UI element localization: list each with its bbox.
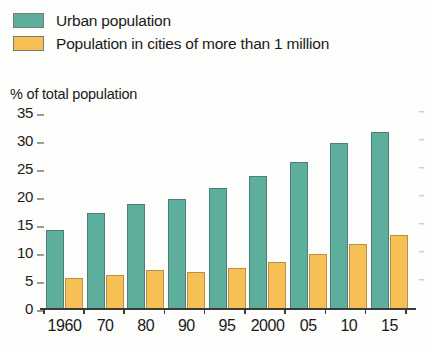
y-axis-tick-15: 15 — [17, 216, 44, 233]
bar[interactable] — [106, 275, 124, 308]
y-axis-tick-label: 35 — [17, 104, 33, 121]
y-axis-tick-dash — [37, 226, 44, 228]
y-axis-tick-dash — [37, 170, 44, 172]
bar-group — [371, 112, 408, 308]
x-axis-tick — [405, 309, 407, 314]
bar[interactable] — [249, 176, 267, 308]
y-axis-tick-20: 20 — [17, 188, 44, 205]
x-axis-tick — [123, 309, 125, 314]
right-tick-mark — [419, 111, 424, 112]
y-axis-tick-dash — [37, 282, 44, 284]
legend-label-million-plus: Population in cities of more than 1 mill… — [56, 36, 329, 52]
legend-item-million-plus: Population in cities of more than 1 mill… — [13, 32, 329, 55]
y-axis-tick-dash — [37, 198, 44, 200]
bar-group — [249, 112, 286, 308]
y-axis-tick-dash — [37, 254, 44, 256]
y-axis-tick-label: 10 — [17, 244, 33, 261]
bar[interactable] — [290, 162, 308, 308]
bar[interactable] — [127, 204, 145, 308]
x-axis-label: 1960 — [46, 317, 83, 345]
x-axis-tick — [365, 309, 367, 314]
bar-group — [290, 112, 327, 308]
chart-plot-area: 05101520253035 1960708090952000051015 — [0, 112, 426, 326]
y-axis-tick-label: 15 — [17, 216, 33, 233]
bar[interactable] — [168, 199, 186, 308]
y-axis-tick-30: 30 — [17, 132, 44, 149]
x-axis-tick — [164, 309, 166, 314]
bar[interactable] — [87, 213, 105, 308]
x-axis-labels: 1960708090952000051015 — [46, 317, 408, 345]
bar[interactable] — [65, 278, 83, 308]
right-tick-marks — [416, 112, 424, 308]
bar[interactable] — [46, 230, 64, 308]
bar[interactable] — [330, 143, 348, 308]
chart-legend: Urban population Population in cities of… — [13, 9, 329, 55]
x-axis-tick — [204, 309, 206, 314]
x-axis-tick — [43, 309, 45, 314]
y-axis-labels: 05101520253035 — [0, 112, 44, 322]
bar-group — [127, 112, 164, 308]
legend-swatch-urban — [13, 13, 44, 28]
bar[interactable] — [146, 270, 164, 308]
bar[interactable] — [187, 272, 205, 308]
x-axis-label: 80 — [127, 317, 164, 345]
y-axis-tick-35: 35 — [17, 104, 44, 121]
bar[interactable] — [209, 188, 227, 308]
bar-group — [330, 112, 367, 308]
x-axis-tick-marks — [0, 308, 426, 315]
x-axis-tick — [83, 309, 85, 314]
y-axis-tick-25: 25 — [17, 160, 44, 177]
y-axis-tick-label: 25 — [17, 160, 33, 177]
bar[interactable] — [390, 235, 408, 308]
bar-group — [209, 112, 246, 308]
y-axis-tick-10: 10 — [17, 244, 44, 261]
x-axis-label: 05 — [290, 317, 327, 345]
bar[interactable] — [309, 254, 327, 308]
y-axis-tick-label: 20 — [17, 188, 33, 205]
bar[interactable] — [228, 268, 246, 308]
bar[interactable] — [349, 244, 367, 308]
y-axis-tick-label: 5 — [25, 272, 33, 289]
x-axis-tick — [325, 309, 327, 314]
x-axis-tick — [284, 309, 286, 314]
legend-item-urban: Urban population — [13, 9, 329, 32]
right-tick-mark — [419, 167, 424, 168]
x-axis-label: 90 — [168, 317, 205, 345]
bar-groups — [46, 112, 408, 308]
x-axis-label: 15 — [371, 317, 408, 345]
bar[interactable] — [371, 132, 389, 308]
x-axis-label: 10 — [330, 317, 367, 345]
x-axis-label: 2000 — [249, 317, 286, 345]
y-axis-title: % of total population — [10, 86, 137, 102]
y-axis-tick-label: 30 — [17, 132, 33, 149]
x-axis-tick — [244, 309, 246, 314]
right-tick-mark — [419, 251, 424, 252]
bar-group — [46, 112, 83, 308]
y-axis-tick-dash — [37, 142, 44, 144]
x-axis-label: 95 — [209, 317, 246, 345]
y-axis-tick-5: 5 — [25, 272, 44, 289]
right-tick-mark — [419, 195, 424, 196]
legend-swatch-million-plus — [13, 36, 44, 51]
right-tick-mark — [419, 139, 424, 140]
right-tick-mark — [419, 279, 424, 280]
y-axis-tick-dash — [37, 114, 44, 116]
right-tick-mark — [419, 223, 424, 224]
bar-group — [87, 112, 124, 308]
legend-label-urban: Urban population — [56, 13, 171, 29]
bar[interactable] — [268, 262, 286, 308]
bar-group — [168, 112, 205, 308]
x-axis-label: 70 — [87, 317, 124, 345]
